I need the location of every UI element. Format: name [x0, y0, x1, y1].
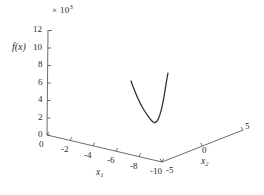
z-axis-line: [47, 30, 48, 135]
z-tick-label-10: 10: [33, 43, 42, 52]
x1-tick-label--2: -2: [61, 145, 69, 154]
data-curve: [131, 73, 168, 123]
z-tick-label-0: 0: [38, 130, 43, 139]
exponent-base: × 10: [52, 5, 70, 15]
z-axis-label: f(x): [12, 42, 26, 52]
z-tick-label-4: 4: [38, 95, 43, 104]
chart-figure: × 103 f(x) 12 10 8 6 4 2 0 0 -2 -4 -6 -8…: [0, 0, 264, 195]
x1-tick-label--6: -6: [107, 156, 115, 165]
x2-axis-label-sub: 2: [205, 160, 208, 167]
x1-tick-label-0: 0: [39, 140, 44, 149]
x1-axis-label-sub: 1: [100, 171, 103, 178]
z-tick-label-12: 12: [33, 25, 42, 34]
x1-tick-label--8: -8: [130, 162, 138, 171]
z-tick-label-6: 6: [38, 78, 43, 87]
x2-tick-label--5: -5: [166, 166, 174, 175]
z-axis-exponent-label: × 103: [52, 6, 73, 15]
z-tick-label-2: 2: [38, 113, 43, 122]
x2-tick-label-0: 0: [202, 146, 207, 155]
x1-axis-label: x1: [96, 168, 103, 178]
x1-tick-label--4: -4: [84, 151, 92, 160]
exponent-power: 3: [70, 3, 74, 10]
x2-tick-label-5: 5: [245, 122, 250, 131]
x2-axis-label: x2: [201, 157, 208, 167]
x1-tick-label--10: -10: [150, 167, 162, 176]
z-tick-label-8: 8: [38, 60, 43, 69]
